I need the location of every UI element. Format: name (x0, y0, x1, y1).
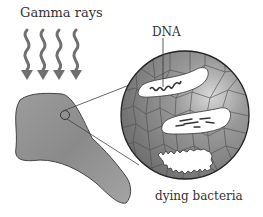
gamma-rays (21, 30, 82, 80)
diagram-canvas (0, 0, 263, 217)
gamma-ray-4 (70, 30, 82, 80)
dying-bacteria-label: dying bacteria (155, 189, 243, 203)
gamma-ray-3 (53, 30, 65, 80)
gamma-rays-label: Gamma rays (20, 5, 103, 20)
gamma-ray-1 (21, 30, 33, 80)
dna-label: DNA (152, 25, 181, 39)
gamma-ray-2 (37, 30, 49, 80)
